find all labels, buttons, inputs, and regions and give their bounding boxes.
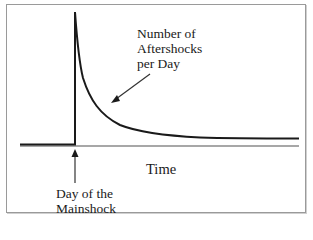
curve-label: Number of Aftershocks per Day xyxy=(137,26,202,71)
x-axis-label: Time xyxy=(146,162,176,177)
curve-label-arrowhead-icon xyxy=(111,95,120,103)
mainshock-label: Day of the Mainshock xyxy=(56,186,116,216)
curve-label-line-1: Number of xyxy=(137,26,202,41)
mainshock-label-line-2: Mainshock xyxy=(56,201,116,216)
curve-label-arrow xyxy=(116,74,150,99)
curve-label-line-2: Aftershocks xyxy=(137,41,202,56)
mainshock-label-line-1: Day of the xyxy=(56,186,116,201)
curve-label-line-3: per Day xyxy=(137,56,202,71)
mainshock-arrowhead-icon xyxy=(72,149,79,157)
